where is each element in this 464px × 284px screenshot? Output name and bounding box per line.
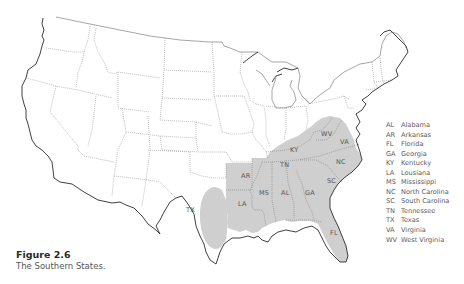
legend-state-name: Lousiana [401, 169, 430, 179]
state-label-ar: AR [241, 172, 251, 180]
legend-row: SCSouth Carolina [386, 197, 449, 207]
legend-abbr: TN [386, 207, 401, 217]
legend-row: NCNorth Carolina [386, 188, 449, 198]
state-abbreviation-legend: ALAlabama ARArkansas FLFlorida GAGeorgia… [386, 121, 449, 245]
legend-row: ARArkansas [386, 131, 449, 141]
legend-row: MSMississippi [386, 178, 449, 188]
legend-abbr: SC [386, 197, 401, 207]
legend-state-name: Tennessee [401, 207, 435, 217]
state-label-ga: GA [305, 189, 315, 197]
state-label-nc: NC [336, 158, 346, 166]
state-label-fl: FL [330, 229, 338, 237]
legend-abbr: KY [386, 159, 401, 169]
legend-abbr: AL [386, 121, 401, 131]
legend-row: GAGeorgia [386, 150, 449, 160]
legend-abbr: NC [386, 188, 401, 198]
legend-abbr: LA [386, 169, 401, 179]
state-label-ms: MS [259, 189, 269, 197]
state-label-al: AL [281, 189, 290, 197]
legend-state-name: Kentucky [401, 159, 431, 169]
legend-row: WVWest Virginia [386, 236, 449, 246]
legend-row: LALousiana [386, 169, 449, 179]
legend-row: FLFlorida [386, 140, 449, 150]
state-label-la: LA [238, 200, 247, 208]
state-label-tn: TN [279, 161, 289, 169]
legend-abbr: TX [386, 216, 401, 226]
state-label-va: VA [340, 138, 349, 146]
legend-state-name: Alabama [401, 121, 430, 131]
legend-state-name: Mississippi [401, 178, 436, 188]
legend-state-name: North Carolina [401, 188, 449, 198]
legend-row: KYKentucky [386, 159, 449, 169]
legend-state-name: Virginia [401, 226, 426, 236]
figure-caption: Figure 2.6 The Southern States. [16, 249, 106, 271]
legend-state-name: Arkansas [401, 131, 431, 141]
legend-abbr: WV [386, 236, 401, 246]
legend-state-name: South Carolina [401, 197, 449, 207]
state-label-tx: TX [185, 206, 195, 214]
legend-row: TXTexas [386, 216, 449, 226]
state-label-sc: SC [327, 177, 336, 185]
legend-abbr: MS [386, 178, 401, 188]
state-label-wv: WV [321, 130, 333, 138]
legend-state-name: Georgia [401, 150, 427, 160]
legend-state-name: Florida [401, 140, 423, 150]
legend-row: VAVirginia [386, 226, 449, 236]
legend-row: TNTennessee [386, 207, 449, 217]
state-label-ky: KY [290, 146, 298, 154]
figure-number: Figure 2.6 [16, 249, 106, 260]
legend-abbr: FL [386, 140, 401, 150]
legend-abbr: AR [386, 131, 401, 141]
figure-description: The Southern States. [16, 261, 106, 271]
legend-abbr: VA [386, 226, 401, 236]
legend-state-name: West Virginia [401, 236, 444, 246]
legend-row: ALAlabama [386, 121, 449, 131]
legend-state-name: Texas [401, 216, 419, 226]
national-border [56, 17, 406, 108]
legend-abbr: GA [386, 150, 401, 160]
